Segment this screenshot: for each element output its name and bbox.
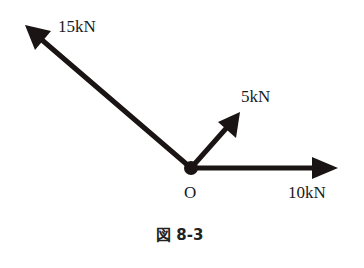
force-label-15kN: 15kN xyxy=(58,18,96,35)
origin-label: O xyxy=(184,184,196,201)
arrowhead-10kN-icon xyxy=(312,157,338,179)
figure-caption: 図 8-3 xyxy=(156,228,203,243)
origin-point xyxy=(184,161,198,175)
force-label-5kN: 5kN xyxy=(241,88,270,105)
force-label-10kN: 10kN xyxy=(288,184,326,201)
force-5kN-shaft xyxy=(191,124,230,168)
force-15kN-shaft xyxy=(42,40,191,168)
